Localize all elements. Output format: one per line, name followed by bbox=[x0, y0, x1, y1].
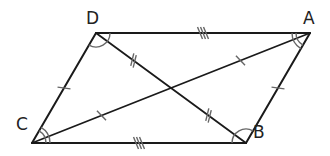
angle-arc-c bbox=[39, 131, 46, 143]
tick-mark-ab bbox=[272, 87, 285, 89]
parallelogram-diagonals bbox=[32, 33, 310, 143]
vertex-label-c: C bbox=[16, 116, 28, 133]
vertex-label-a: A bbox=[303, 10, 315, 27]
tick-mark-diagonal-ac bbox=[97, 111, 106, 120]
angle-arc-a bbox=[296, 33, 303, 45]
parallelogram-diagram: D A B C bbox=[0, 0, 330, 156]
tick-mark-diagonal-ac bbox=[236, 56, 245, 65]
parallelogram-figure bbox=[0, 0, 330, 156]
vertex-label-d: D bbox=[86, 10, 99, 27]
vertex-label-b: B bbox=[253, 124, 265, 141]
diagonal-ac bbox=[32, 33, 310, 143]
tick-mark-cd bbox=[58, 87, 71, 89]
